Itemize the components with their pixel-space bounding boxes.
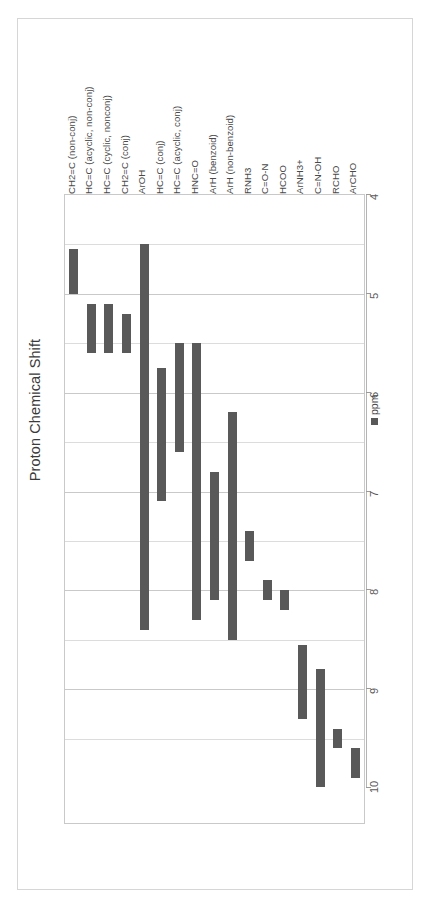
- axis-tick-label-4: 4: [368, 194, 380, 200]
- category-label-arh-benzoid: ArH (benzoid): [207, 134, 218, 194]
- legend-swatch-ppm: [371, 418, 378, 425]
- category-label-hc-c-acyclic-non-conj: HC=C (acyclic, non-conj): [83, 86, 94, 194]
- bar-hc-c-cyclic-nonconj: [104, 304, 113, 353]
- legend-label-ppm: ppm: [368, 395, 380, 415]
- category-label-hnc-o: HNC=O: [189, 160, 200, 194]
- bar-c-n-oh: [316, 669, 325, 797]
- gridline-minor: [65, 640, 364, 641]
- category-label-rnh3: RNH3: [242, 168, 253, 194]
- gridline-major: [65, 294, 364, 295]
- gridline-minor: [65, 244, 364, 245]
- plot-frame-bottom-extension: [64, 787, 365, 824]
- bar-hc-c-acyclic-conj: [175, 343, 184, 452]
- category-label-c-n-oh: C=N-OH: [312, 157, 323, 194]
- category-label-archo: ArCHO: [347, 163, 358, 194]
- bar-arnh3: [298, 645, 307, 719]
- axis-tick-label-5: 5: [368, 293, 380, 299]
- category-label-hc-c-cyclic-nonconj: HC=C (cyclic, nonconj): [101, 95, 112, 194]
- bar-arh-non-benzoid: [228, 412, 237, 639]
- bar-hc-c-conj: [157, 368, 166, 501]
- axis-tick-label-9: 9: [368, 688, 380, 694]
- gridline-major: [65, 393, 364, 394]
- category-label-hc-c-acyclic-conj: HC=C (acyclic, conj): [171, 106, 182, 194]
- chart-sheet: Proton Chemical Shift CH2=C (non-conj)HC…: [0, 0, 430, 908]
- value-axis: 45678910: [366, 194, 406, 787]
- bar-ch2-c-conj: [122, 314, 131, 354]
- category-label-arnh3: ArNH3+: [294, 159, 305, 194]
- bar-rnh3: [245, 531, 254, 561]
- bar-hnc-o: [192, 343, 201, 620]
- gridline-minor: [65, 442, 364, 443]
- plot-area: [64, 194, 365, 789]
- category-label-rcho: RCHO: [330, 166, 341, 194]
- category-label-ch2-c-conj: CH2=C (conj): [119, 135, 130, 194]
- category-label-hc-c-conj: HC=C (conj): [154, 140, 165, 194]
- bar-c-o-n: [263, 580, 272, 600]
- category-label-hcoo: HCOO: [277, 165, 288, 194]
- bar-hc-c-acyclic-non-conj: [87, 304, 96, 353]
- bar-hcoo: [280, 590, 289, 610]
- bar-ch2-c-non-conj: [69, 249, 78, 293]
- bar-rcho: [333, 729, 342, 749]
- axis-tick-label-8: 8: [368, 589, 380, 595]
- axis-tick-label-10: 10: [368, 781, 380, 793]
- axis-tick-label-7: 7: [368, 490, 380, 496]
- category-label-aroh: ArOH: [136, 170, 147, 194]
- bar-aroh: [140, 244, 149, 629]
- chart-title: Proton Chemical Shift: [27, 320, 43, 500]
- bar-archo: [351, 748, 360, 778]
- category-label-ch2-c-non-conj: CH2=C (non-conj): [66, 116, 77, 194]
- legend: ppm: [368, 425, 398, 437]
- category-label-c-o-n: C=O-N: [259, 164, 270, 194]
- category-label-arh-non-benzoid: ArH (non-benzoid): [224, 115, 235, 194]
- category-label-group: CH2=C (non-conj)HC=C (acyclic, non-conj)…: [64, 44, 364, 194]
- bar-arh-benzoid: [210, 472, 219, 600]
